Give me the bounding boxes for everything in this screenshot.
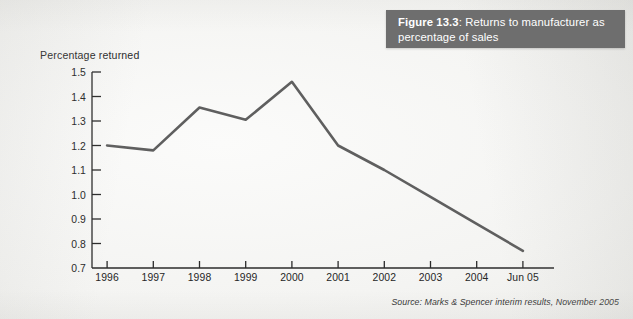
y-axis-title: Percentage returned <box>40 49 139 61</box>
y-tick-label: 1.2 <box>52 140 86 151</box>
figure-title-banner: Figure 13.3: Returns to manufacturer as … <box>386 10 625 48</box>
x-tick-label: 2001 <box>326 272 350 283</box>
axis-lines <box>92 72 554 268</box>
x-tick-label: 1999 <box>234 272 258 283</box>
line-chart-svg <box>92 72 554 268</box>
y-tick-label: 1.1 <box>52 165 86 176</box>
x-tick-label: 1996 <box>95 272 119 283</box>
y-tick-label: 1.3 <box>52 116 86 127</box>
figure-container: Figure 13.3: Returns to manufacturer as … <box>0 0 633 319</box>
y-axis-ticks <box>92 72 101 244</box>
x-tick-label: 2000 <box>280 272 304 283</box>
x-axis-tick-labels: 199619971998199920002001200220032004Jun … <box>92 272 562 288</box>
figure-title-text: Figure 13.3: Returns to manufacturer as … <box>398 15 619 44</box>
x-tick-label: 1997 <box>142 272 166 283</box>
x-tick-label: 2002 <box>373 272 397 283</box>
x-tick-label: Jun 05 <box>507 272 539 283</box>
source-note: Source: Marks & Spencer interim results,… <box>391 297 619 307</box>
x-tick-label: 1998 <box>188 272 212 283</box>
y-tick-label: 1.0 <box>52 189 86 200</box>
y-tick-label: 0.7 <box>52 263 86 274</box>
data-series-line <box>107 82 523 251</box>
x-axis-ticks <box>107 261 523 268</box>
figure-number: Figure 13.3 <box>398 16 459 28</box>
x-tick-label: 2003 <box>419 272 443 283</box>
y-tick-label: 0.8 <box>52 238 86 249</box>
y-tick-label: 0.9 <box>52 214 86 225</box>
x-tick-label: 2004 <box>465 272 489 283</box>
y-tick-label: 1.5 <box>52 67 86 78</box>
y-tick-label: 1.4 <box>52 91 86 102</box>
y-axis-tick-labels: 1.51.41.31.21.11.00.90.80.7 <box>52 72 86 268</box>
plot-area <box>92 72 554 268</box>
